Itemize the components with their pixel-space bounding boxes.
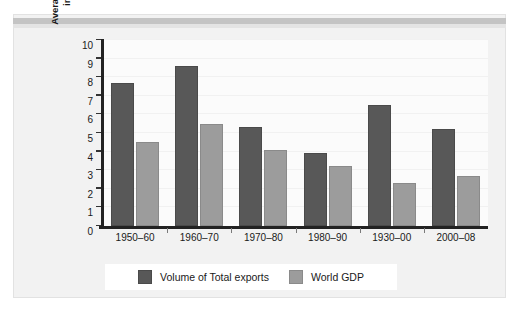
x-tick-label: 1970–80 [244, 232, 283, 243]
x-tick-separator [296, 228, 297, 233]
x-tick-separator [360, 228, 361, 233]
bar [304, 153, 327, 226]
bar [175, 66, 198, 226]
plot-area: Average annual percentage increase in vo… [55, 36, 495, 251]
x-axis-line [99, 226, 488, 229]
bar [457, 176, 480, 226]
bar-group [239, 40, 287, 226]
x-tick-label: 2000–08 [436, 232, 475, 243]
chart-legend: Volume of Total exports World GDP [105, 264, 397, 290]
x-tick-label: 1930–00 [372, 232, 411, 243]
bar [393, 183, 416, 226]
bar-group [111, 40, 159, 226]
bar [368, 105, 391, 226]
bar-group [368, 40, 416, 226]
bar [432, 129, 455, 226]
figure-header-band-soft [13, 24, 506, 28]
x-tick-label: 1960–70 [180, 232, 219, 243]
bar [329, 166, 352, 226]
x-tick-separator [424, 228, 425, 233]
bar [136, 142, 159, 226]
axes: 012345678910 1950–601960–701970–801980–9… [103, 40, 488, 226]
x-tick-label: 1950–60 [116, 232, 155, 243]
y-axis-title: Average annual percentage increase in vo… [49, 0, 79, 52]
bar [200, 124, 223, 226]
legend-label: World GDP [311, 271, 364, 283]
bars-layer [103, 40, 488, 226]
legend-swatch-icon [289, 270, 303, 284]
bar-group [304, 40, 352, 226]
bar-group [432, 40, 480, 226]
bar [239, 127, 262, 226]
legend-item-volume-of-total-exports: Volume of Total exports [138, 270, 269, 284]
bar [264, 150, 287, 226]
bar-group [175, 40, 223, 226]
chart-figure: Average annual percentage increase in vo… [0, 0, 519, 314]
legend-item-world-gdp: World GDP [289, 270, 364, 284]
y-axis-title-line2: increase in volume [61, 0, 72, 6]
legend-label: Volume of Total exports [160, 271, 269, 283]
legend-swatch-icon [138, 270, 152, 284]
x-tick-separator [167, 228, 168, 233]
y-axis-title-line1: Average annual percentage [49, 0, 60, 25]
x-tick-separator [231, 228, 232, 233]
x-tick-label: 1980–90 [308, 232, 347, 243]
bar [111, 83, 134, 226]
